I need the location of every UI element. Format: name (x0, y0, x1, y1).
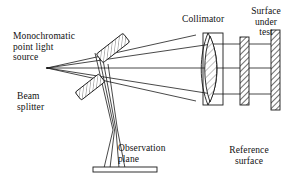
reference-surface (240, 37, 249, 105)
label-monochromatic-point-light-source: Monochromatic point light source (13, 31, 75, 63)
label-observation-plane: Observation plane (118, 143, 166, 164)
label-collimator: Collimator (182, 14, 224, 25)
surface-under-test (271, 30, 280, 110)
label-surface-under-test: Surface under test (243, 6, 289, 38)
point-light-source-marker (46, 67, 48, 69)
label-beam-splitter: Beam splitter (17, 91, 44, 112)
label-reference-surface: Reference surface (213, 145, 285, 166)
observation-plane (93, 167, 157, 172)
optical-diagram-figure: Monochromatic point light source Beam sp… (0, 0, 293, 187)
